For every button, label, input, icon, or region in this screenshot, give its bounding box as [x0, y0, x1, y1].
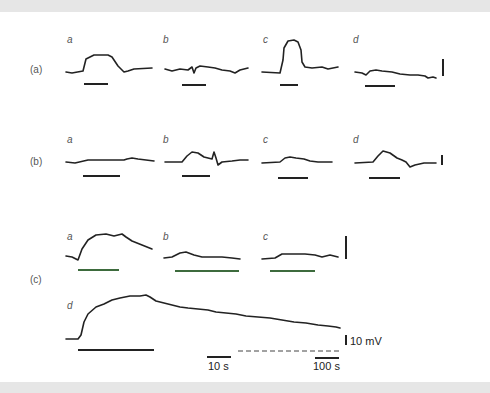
- voltage-scale-label: 10 mV: [350, 335, 382, 347]
- trace-b-a: [66, 158, 154, 163]
- trace-c-a: [66, 234, 152, 260]
- panel-a-a-label: a: [67, 34, 73, 45]
- row-label-c: (c): [30, 274, 42, 285]
- figure-electrophysiology-traces: (a) a b c d (b) a b c d (c) a b c d 10 m…: [0, 0, 490, 393]
- panel-c-a-label: a: [67, 231, 73, 242]
- row-label-b: (b): [30, 156, 42, 167]
- trace-b-b: [165, 152, 248, 165]
- panel-a-d-label: d: [353, 34, 359, 45]
- trace-b-d: [355, 151, 436, 167]
- trace-c-d: [66, 295, 340, 339]
- panel-b-b-label: b: [163, 134, 169, 145]
- trace-b-c: [262, 157, 332, 163]
- panel-b-c-label: c: [263, 134, 268, 145]
- trace-a-d: [355, 70, 436, 78]
- panel-c-c-label: c: [263, 231, 268, 242]
- trace-a-c: [262, 40, 338, 73]
- panel-a-c-label: c: [263, 34, 268, 45]
- panel-b-a-label: a: [67, 134, 73, 145]
- trace-a-a: [66, 55, 152, 73]
- row-label-a: (a): [30, 64, 42, 75]
- panel-b-d-label: d: [353, 134, 359, 145]
- trace-c-c: [262, 254, 338, 259]
- caption-bar: Extracellular recordings of the response…: [0, 382, 490, 393]
- trace-a-b: [165, 66, 248, 73]
- time-scale-label-long: 100 s: [313, 360, 340, 372]
- trace-c-b: [164, 252, 240, 259]
- panel-c-d-label: d: [67, 300, 73, 311]
- time-scale-label-short: 10 s: [208, 360, 229, 372]
- panel-a-b-label: b: [163, 34, 169, 45]
- panel-c-b-label: b: [163, 231, 169, 242]
